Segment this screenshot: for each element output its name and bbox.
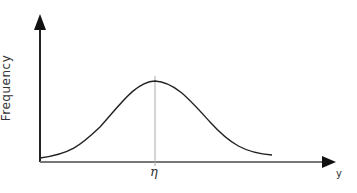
bell-curve-diagram [0,0,357,193]
x-axis-arrow-icon [322,156,336,168]
y-axis-arrow-icon [34,14,46,30]
peak-marker-label: η [150,164,158,179]
y-axis-label: Frequency [0,55,13,122]
frequency-curve [40,81,272,158]
x-axis-label: y [336,168,342,179]
